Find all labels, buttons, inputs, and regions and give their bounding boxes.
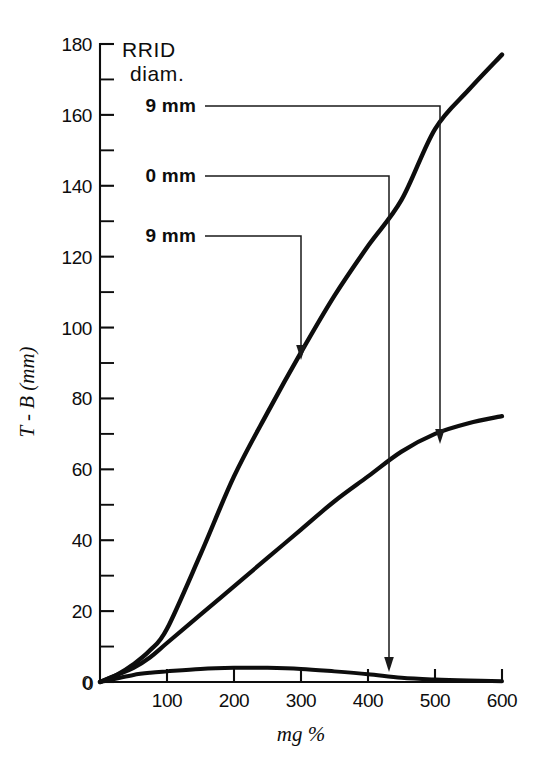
y-tick-label: 80 <box>72 388 92 409</box>
x-tick-label: 600 <box>487 690 518 711</box>
y-axis-tick-labels: 020406080100120140160180 <box>61 34 92 693</box>
legend-label-2: 9 mm <box>146 225 196 246</box>
y-axis-ticks <box>100 44 114 682</box>
figure-container: 020406080100120140160180 010020030040050… <box>0 0 545 770</box>
y-tick-label: 60 <box>72 459 92 480</box>
leader-line-2 <box>205 236 301 349</box>
annotation-leaders <box>205 106 445 672</box>
y-tick-label: 160 <box>61 105 92 126</box>
legend-label-0: 9 mm <box>146 95 196 116</box>
x-tick-label: 100 <box>152 690 183 711</box>
arrow-head-0 <box>435 429 445 444</box>
legend-title-line1: RRID <box>122 38 176 61</box>
y-tick-label: 40 <box>72 530 92 551</box>
x-tick-label: 0 <box>83 673 93 694</box>
chart-canvas: 020406080100120140160180 010020030040050… <box>0 0 545 770</box>
axes <box>100 44 502 682</box>
y-tick-label: 20 <box>72 601 92 622</box>
x-tick-label: 300 <box>286 690 317 711</box>
y-axis-title: T - B (mm) <box>15 346 39 437</box>
curve-9mm-upper <box>100 55 502 682</box>
data-curves <box>100 55 502 682</box>
x-tick-label: 400 <box>353 690 384 711</box>
x-tick-label: 500 <box>420 690 451 711</box>
legend: RRID diam. 9 mm 0 mm 9 mm <box>122 38 196 246</box>
y-tick-label: 180 <box>61 34 92 55</box>
legend-label-1: 0 mm <box>146 165 196 186</box>
leader-line-0 <box>205 106 440 433</box>
y-tick-label: 140 <box>61 176 92 197</box>
x-axis-title: mg % <box>277 722 325 746</box>
y-tick-label: 120 <box>61 247 92 268</box>
y-tick-label: 100 <box>61 318 92 339</box>
legend-title-line2: diam. <box>130 62 184 85</box>
x-tick-label: 200 <box>219 690 250 711</box>
arrow-head-1 <box>384 657 394 672</box>
